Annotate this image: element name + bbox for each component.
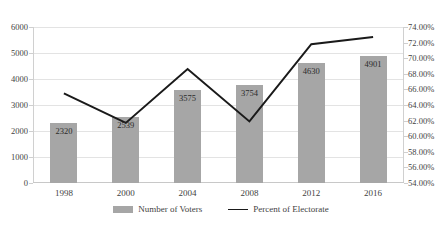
bar-data-label: 4901 bbox=[353, 60, 393, 69]
x-axis-label: 2008 bbox=[221, 188, 277, 198]
left-axis-tick-label: 0 bbox=[0, 179, 28, 188]
plot-area bbox=[33, 27, 404, 183]
left-axis-tick-mark bbox=[29, 183, 33, 184]
left-axis-tick-label: 4000 bbox=[0, 75, 28, 84]
right-axis-tick-label: 72.00% bbox=[408, 39, 442, 48]
right-axis-tick-label: 54.00% bbox=[408, 179, 442, 188]
bar-data-label: 3575 bbox=[168, 94, 208, 103]
right-axis-tick-mark bbox=[404, 74, 408, 75]
bar[interactable] bbox=[360, 56, 387, 183]
right-axis-tick-label: 62.00% bbox=[408, 117, 442, 126]
x-axis-label: 2016 bbox=[345, 188, 401, 198]
bar-data-label: 3754 bbox=[229, 89, 269, 98]
bar-data-label: 2320 bbox=[44, 127, 84, 136]
right-axis-tick-label: 56.00% bbox=[408, 163, 442, 172]
right-axis-tick-label: 70.00% bbox=[408, 54, 442, 63]
bar-data-label: 4630 bbox=[291, 67, 331, 76]
x-axis-label: 2004 bbox=[160, 188, 216, 198]
right-axis-tick-mark bbox=[404, 167, 408, 168]
left-axis-tick-label: 1000 bbox=[0, 153, 28, 162]
right-axis-tick-mark bbox=[404, 105, 408, 106]
gridline bbox=[33, 105, 404, 106]
right-axis-tick-mark bbox=[404, 136, 408, 137]
right-axis-tick-label: 66.00% bbox=[408, 85, 442, 94]
bar-data-label: 2539 bbox=[106, 121, 146, 130]
chart-container: 0100020003000400050006000 54.00%56.00%58… bbox=[0, 0, 442, 226]
bar[interactable] bbox=[174, 90, 201, 183]
left-axis-tick-label: 3000 bbox=[0, 101, 28, 110]
left-axis-tick-label: 5000 bbox=[0, 49, 28, 58]
x-axis-label: 1998 bbox=[36, 188, 92, 198]
gridline bbox=[33, 131, 404, 132]
right-axis-tick-label: 64.00% bbox=[408, 101, 442, 110]
right-axis-tick-mark bbox=[404, 27, 408, 28]
left-axis-line bbox=[33, 27, 34, 183]
gridline bbox=[33, 157, 404, 158]
legend-label-number-of-voters: Number of Voters bbox=[138, 204, 202, 214]
left-axis-tick-label: 2000 bbox=[0, 127, 28, 136]
right-axis-tick-label: 58.00% bbox=[408, 148, 442, 157]
x-axis-line bbox=[33, 182, 404, 183]
right-axis-tick-mark bbox=[404, 183, 408, 184]
percent-of-electorate-line bbox=[64, 37, 373, 123]
right-axis-tick-mark bbox=[404, 89, 408, 90]
legend-label-percent-of-electorate: Percent of Electorate bbox=[253, 204, 328, 214]
right-axis-line bbox=[403, 27, 404, 183]
right-axis-tick-label: 74.00% bbox=[408, 23, 442, 32]
right-axis-tick-mark bbox=[404, 43, 408, 44]
gridline bbox=[33, 27, 404, 28]
legend-line-swatch-icon bbox=[228, 209, 248, 210]
bar[interactable] bbox=[236, 85, 263, 183]
gridline bbox=[33, 79, 404, 80]
left-axis-tick-label: 6000 bbox=[0, 23, 28, 32]
right-axis-tick-mark bbox=[404, 121, 408, 122]
bar[interactable] bbox=[298, 63, 325, 183]
legend-item-percent-of-electorate[interactable]: Percent of Electorate bbox=[228, 204, 328, 214]
right-axis-tick-mark bbox=[404, 58, 408, 59]
chart-legend: Number of Voters Percent of Electorate bbox=[0, 204, 442, 214]
right-axis-tick-label: 68.00% bbox=[408, 70, 442, 79]
x-axis-label: 2000 bbox=[98, 188, 154, 198]
gridline bbox=[33, 53, 404, 54]
right-axis-tick-label: 60.00% bbox=[408, 132, 442, 141]
legend-bar-swatch-icon bbox=[113, 206, 133, 213]
legend-item-number-of-voters[interactable]: Number of Voters bbox=[113, 204, 202, 214]
x-axis-label: 2012 bbox=[283, 188, 339, 198]
right-axis-tick-mark bbox=[404, 152, 408, 153]
